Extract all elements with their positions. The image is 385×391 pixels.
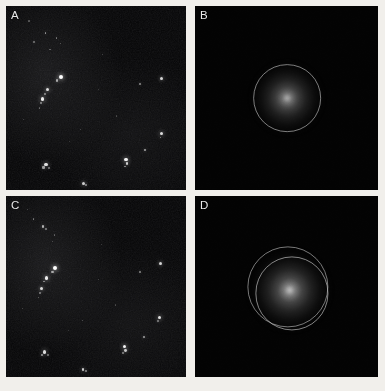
particle-spot bbox=[139, 271, 141, 273]
diffraction-ring bbox=[254, 64, 322, 132]
particle-spot bbox=[47, 354, 49, 356]
particle-spot bbox=[85, 370, 87, 372]
particle-spot bbox=[48, 167, 50, 169]
particle-spot bbox=[45, 276, 48, 279]
diffraction-ring bbox=[255, 257, 328, 330]
panel-label-b: B bbox=[200, 9, 208, 22]
panel-d: D bbox=[195, 196, 378, 377]
panel-c: C bbox=[6, 196, 186, 377]
particle-spot bbox=[139, 83, 141, 85]
particle-spot bbox=[33, 41, 34, 42]
particle-spot bbox=[39, 292, 41, 294]
panel-a: A bbox=[6, 6, 186, 190]
figure-canvas: A B C bbox=[0, 0, 385, 391]
particle-spot bbox=[159, 262, 162, 265]
particle-spot bbox=[51, 271, 53, 273]
particle-spot bbox=[43, 350, 46, 353]
diffraction-field-d bbox=[195, 196, 378, 377]
panel-label-d: D bbox=[200, 199, 209, 212]
particle-spot bbox=[28, 20, 29, 21]
particle-spot bbox=[44, 93, 46, 95]
particle-spot bbox=[102, 54, 103, 55]
particle-spot bbox=[116, 115, 117, 116]
particle-spot bbox=[27, 209, 28, 210]
particle-spot bbox=[59, 75, 63, 79]
particle-spot bbox=[42, 166, 44, 168]
diffraction-field-b bbox=[195, 6, 378, 190]
particle-spot bbox=[160, 77, 163, 80]
panel-b: B bbox=[195, 6, 378, 190]
particle-spot bbox=[69, 141, 70, 142]
particle-spot bbox=[124, 158, 127, 161]
particle-spot bbox=[44, 163, 47, 166]
particle-spot bbox=[49, 49, 50, 50]
panel-label-a: A bbox=[11, 9, 19, 22]
particle-spot bbox=[42, 225, 44, 227]
particle-spot bbox=[54, 234, 55, 235]
particle-spot bbox=[40, 102, 42, 104]
grain-texture-a bbox=[6, 6, 186, 190]
panel-label-c: C bbox=[11, 199, 20, 212]
particle-spot bbox=[115, 304, 116, 305]
particle-spot bbox=[101, 244, 102, 245]
particle-spot bbox=[53, 266, 57, 270]
particle-spot bbox=[68, 330, 69, 331]
particle-spot bbox=[98, 279, 99, 280]
particle-spot bbox=[33, 218, 35, 220]
particle-spot bbox=[39, 107, 40, 108]
particle-spot bbox=[45, 228, 47, 230]
grain-texture-c bbox=[6, 196, 186, 377]
particle-spot bbox=[56, 37, 58, 39]
